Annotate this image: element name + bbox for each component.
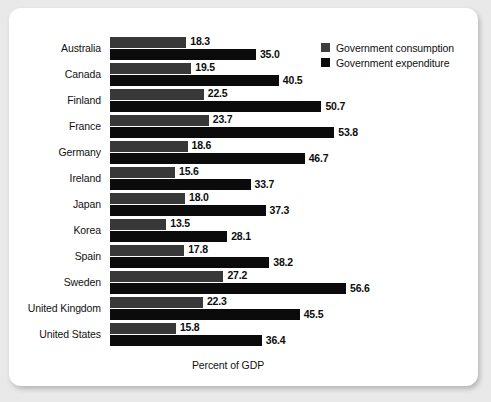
category-label-slot: Korea bbox=[9, 218, 101, 242]
bar-expenditure-ireland bbox=[110, 179, 251, 190]
bar-value-expenditure-united-kingdom: 45.5 bbox=[304, 308, 324, 320]
bar-value-consumption-germany: 18.6 bbox=[192, 139, 212, 151]
bar-expenditure-korea bbox=[110, 231, 227, 242]
bar-value-consumption-japan: 18.0 bbox=[189, 191, 209, 203]
bar-expenditure-spain bbox=[110, 257, 269, 268]
category-label-ireland: Ireland bbox=[9, 166, 101, 190]
category-label-slot: Canada bbox=[9, 62, 101, 86]
bar-expenditure-sweden bbox=[110, 283, 346, 294]
category-label-korea: Korea bbox=[9, 218, 101, 242]
bar-expenditure-australia bbox=[110, 49, 256, 60]
bar-consumption-korea bbox=[110, 219, 166, 230]
chart-plot-area: Australia Canada Finland France Germany … bbox=[9, 8, 478, 386]
category-label-finland: Finland bbox=[9, 88, 101, 112]
category-label-slot: Finland bbox=[9, 88, 101, 112]
legend-label-expenditure: Government expenditure bbox=[336, 57, 449, 69]
bar-value-consumption-korea: 13.5 bbox=[170, 217, 190, 229]
category-label-slot: United States bbox=[9, 322, 101, 346]
bar-value-expenditure-canada: 40.5 bbox=[283, 74, 303, 86]
bar-expenditure-canada bbox=[110, 75, 279, 86]
bar-consumption-finland bbox=[110, 89, 204, 100]
bar-value-expenditure-australia: 35.0 bbox=[260, 48, 280, 60]
legend-label-consumption: Government consumption bbox=[336, 42, 454, 54]
legend-swatch-icon-expenditure bbox=[321, 58, 330, 67]
bar-value-expenditure-united-states: 36.4 bbox=[266, 334, 286, 346]
bar-value-consumption-australia: 18.3 bbox=[190, 35, 210, 47]
bar-expenditure-germany bbox=[110, 153, 305, 164]
bar-consumption-japan bbox=[110, 193, 185, 204]
bar-expenditure-finland bbox=[110, 101, 321, 112]
category-label-slot: Germany bbox=[9, 140, 101, 164]
category-label-slot: Sweden bbox=[9, 270, 101, 294]
category-label-slot: Japan bbox=[9, 192, 101, 216]
bar-consumption-australia bbox=[110, 37, 186, 48]
legend-swatch-icon-consumption bbox=[321, 43, 330, 52]
bar-consumption-germany bbox=[110, 141, 188, 152]
bar-consumption-united-kingdom bbox=[110, 297, 203, 308]
legend-item-government-consumption: Government consumption bbox=[321, 41, 454, 54]
category-label-slot: Australia bbox=[9, 36, 101, 60]
bar-consumption-canada bbox=[110, 63, 191, 74]
bar-value-consumption-ireland: 15.6 bbox=[179, 165, 199, 177]
bar-consumption-sweden bbox=[110, 271, 223, 282]
bar-value-consumption-france: 23.7 bbox=[213, 113, 233, 125]
bar-value-consumption-sweden: 27.2 bbox=[227, 269, 247, 281]
chart-legend: Government consumption Government expend… bbox=[321, 41, 454, 71]
bar-expenditure-japan bbox=[110, 205, 266, 216]
bar-value-expenditure-japan: 37.3 bbox=[270, 204, 290, 216]
category-label-canada: Canada bbox=[9, 62, 101, 86]
x-axis-title: Percent of GDP bbox=[110, 359, 346, 371]
category-label-slot: United Kingdom bbox=[9, 296, 101, 320]
bar-value-expenditure-finland: 50.7 bbox=[325, 100, 345, 112]
bar-expenditure-united-states bbox=[110, 335, 262, 346]
category-label-slot: France bbox=[9, 114, 101, 138]
category-label-australia: Australia bbox=[9, 36, 101, 60]
bar-expenditure-france bbox=[110, 127, 334, 138]
category-label-united-states: United States bbox=[9, 322, 101, 346]
bar-value-consumption-finland: 22.5 bbox=[208, 87, 228, 99]
bar-consumption-united-states bbox=[110, 323, 176, 334]
bar-value-expenditure-sweden: 56.6 bbox=[350, 282, 370, 294]
bar-consumption-ireland bbox=[110, 167, 175, 178]
bar-consumption-france bbox=[110, 115, 209, 126]
category-label-slot: Spain bbox=[9, 244, 101, 268]
bar-value-consumption-canada: 19.5 bbox=[195, 61, 215, 73]
legend-item-government-expenditure: Government expenditure bbox=[321, 56, 454, 69]
bar-value-consumption-united-states: 15.8 bbox=[180, 321, 200, 333]
bar-consumption-spain bbox=[110, 245, 184, 256]
bar-value-expenditure-germany: 46.7 bbox=[309, 152, 329, 164]
bar-expenditure-united-kingdom bbox=[110, 309, 300, 320]
category-label-spain: Spain bbox=[9, 244, 101, 268]
bar-value-expenditure-france: 53.8 bbox=[338, 126, 358, 138]
bar-value-consumption-spain: 17.8 bbox=[188, 243, 208, 255]
category-label-slot: Ireland bbox=[9, 166, 101, 190]
category-label-sweden: Sweden bbox=[9, 270, 101, 294]
category-label-japan: Japan bbox=[9, 192, 101, 216]
bar-value-expenditure-spain: 38.2 bbox=[273, 256, 293, 268]
category-label-france: France bbox=[9, 114, 101, 138]
bar-value-consumption-united-kingdom: 22.3 bbox=[207, 295, 227, 307]
category-label-germany: Germany bbox=[9, 140, 101, 164]
bar-value-expenditure-korea: 28.1 bbox=[231, 230, 251, 242]
chart-panel: Australia Canada Finland France Germany … bbox=[9, 8, 478, 386]
category-label-united-kingdom: United Kingdom bbox=[9, 296, 101, 320]
bar-value-expenditure-ireland: 33.7 bbox=[255, 178, 275, 190]
